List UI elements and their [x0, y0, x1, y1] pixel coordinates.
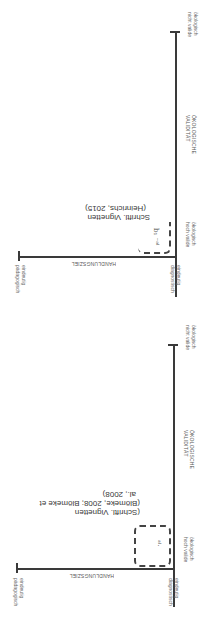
x-axis-line [16, 568, 175, 570]
region-marker: ᵃˡ· [154, 540, 162, 547]
y-axis-top-label: ökologisch nicht valide [185, 325, 197, 350]
region-dashed-box [134, 525, 171, 567]
region-citation: Schriftl. Vignetten (Heinrichs, 2015) [85, 204, 150, 222]
y-axis-bottom-label: ökologisch hoch valide [185, 222, 197, 247]
x-axis-right-label: eindeutig diagnostisch [170, 265, 182, 293]
y-axis-bottom-label: ökologisch hoch valide [183, 537, 195, 562]
x-axis-left-tick [18, 251, 20, 261]
region-marker: b₁ ⁻ᵃˡ [152, 228, 160, 246]
y-axis-top-tick [170, 31, 180, 33]
x-axis-line [18, 256, 177, 258]
y-axis-top-label: ökologisch nicht valide [187, 12, 199, 37]
region-citation: (Schriftl. Vignetten (Blömeke, 2008; Blö… [40, 490, 141, 517]
x-axis-title: HANDLUNGSZIEL [71, 261, 116, 267]
x-axis-title: HANDLUNGSZIEL [69, 573, 114, 579]
y-axis-title: ÖKOLOGISCHE VALIDITÄT [183, 430, 195, 469]
y-axis-title: ÖKOLOGISCHE VALIDITÄT [185, 115, 197, 154]
y-axis-top-tick [168, 344, 178, 346]
x-axis-right-label: eindeutig diagnostisch [168, 578, 180, 606]
x-axis-left-label: eindeutig pädagogisch [13, 578, 25, 606]
x-axis-left-label: eindeutig pädagogisch [15, 265, 27, 293]
x-axis-left-tick [16, 563, 18, 573]
